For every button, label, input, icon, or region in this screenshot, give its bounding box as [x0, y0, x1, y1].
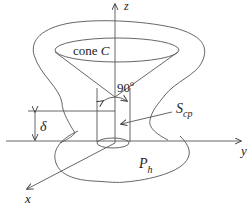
pressure-label-main: P — [138, 156, 148, 171]
pressure-label-sub: h — [148, 164, 153, 175]
delta-label: δ — [40, 119, 47, 134]
cone-penetration-diagram: z y x cone C 90o δ Scp Ph — [0, 0, 251, 208]
cone-label-prefix: cone — [73, 43, 101, 58]
surface-label-main: S — [176, 101, 183, 116]
angle-value: 90 — [117, 80, 130, 95]
cone-label: cone C — [73, 43, 110, 58]
cone-left-side — [55, 52, 115, 97]
y-axis-label: y — [239, 143, 247, 158]
surface-label: Scp — [176, 101, 192, 119]
angle-label: 90o — [117, 79, 134, 95]
x-axis — [27, 143, 115, 189]
surface-label-sub: cp — [183, 108, 192, 119]
z-axis-label: z — [123, 0, 129, 13]
surface-leader-line — [121, 112, 172, 124]
x-axis-label: x — [24, 191, 31, 206]
pressure-label: Ph — [138, 156, 153, 175]
degree-symbol: o — [130, 79, 134, 88]
cylinder-bottom-ellipse — [97, 138, 129, 148]
cone-label-name: C — [101, 43, 110, 58]
diagram-canvas: z y x cone C 90o δ Scp Ph — [0, 0, 251, 208]
